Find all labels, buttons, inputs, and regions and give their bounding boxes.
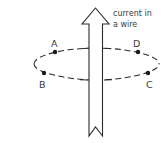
point-A: A (51, 38, 58, 54)
point-B: B (39, 71, 46, 90)
point-A-label: A (51, 38, 58, 49)
point-C-dot (146, 71, 150, 75)
point-D-label: D (133, 38, 140, 49)
current-arrow-icon (82, 8, 109, 136)
point-C-label: C (146, 79, 153, 90)
wire-label: current in a wire (113, 9, 152, 29)
wire-label-line1: current in (113, 9, 152, 18)
wire-arrow (82, 8, 109, 136)
point-A-dot (53, 50, 57, 54)
point-B-dot (42, 71, 46, 75)
wire-field-diagram: A B C D current in a wire (0, 0, 168, 143)
point-B-label: B (39, 79, 46, 90)
wire-label-line2: a wire (113, 20, 137, 29)
point-D-dot (136, 50, 140, 54)
point-C: C (146, 71, 153, 90)
